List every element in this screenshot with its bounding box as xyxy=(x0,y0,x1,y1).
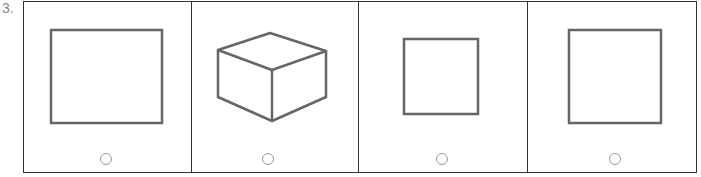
option-2-radio[interactable] xyxy=(262,153,274,165)
question-number: 3. xyxy=(2,0,14,16)
option-4-cell[interactable] xyxy=(528,2,696,172)
option-1-radio[interactable] xyxy=(100,153,112,165)
option-3-cell[interactable] xyxy=(359,2,528,172)
option-2-cell[interactable] xyxy=(192,2,359,172)
answer-options-grid xyxy=(23,1,697,173)
square-shape xyxy=(528,2,696,172)
cube-shape xyxy=(192,2,358,172)
option-3-radio[interactable] xyxy=(436,153,448,165)
option-1-cell[interactable] xyxy=(24,2,192,172)
option-4-radio[interactable] xyxy=(609,153,621,165)
rectangle-shape xyxy=(24,2,191,172)
small-square-shape xyxy=(359,2,527,172)
